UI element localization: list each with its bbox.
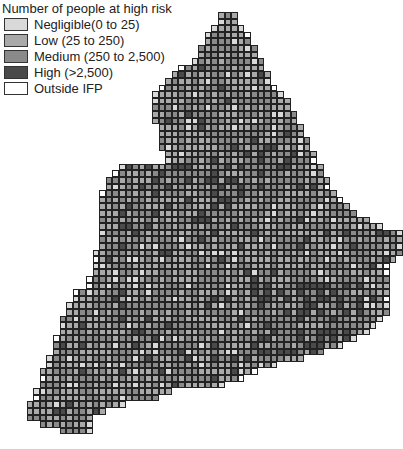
- grid-cell: [178, 78, 185, 85]
- grid-cell: [330, 263, 337, 270]
- grid-cell: [112, 289, 119, 296]
- grid-cell: [370, 230, 377, 237]
- grid-cell: [343, 283, 350, 290]
- grid-cell: [198, 250, 205, 257]
- grid-cell: [363, 256, 370, 263]
- grid-cell: [271, 197, 278, 204]
- grid-cell: [310, 190, 317, 197]
- grid-cell: [297, 256, 304, 263]
- grid-cell: [126, 316, 133, 323]
- grid-cell: [99, 250, 106, 257]
- grid-cell: [310, 223, 317, 230]
- grid-cell: [119, 269, 126, 276]
- grid-cell: [258, 316, 265, 323]
- grid-cell: [40, 415, 47, 422]
- grid-cell: [73, 329, 80, 336]
- grid-cell: [244, 217, 251, 224]
- grid-cell: [60, 395, 67, 402]
- grid-cell: [86, 283, 93, 290]
- grid-cell: [343, 302, 350, 309]
- grid-cell: [264, 230, 271, 237]
- grid-cell: [211, 296, 218, 303]
- grid-cell: [225, 12, 232, 19]
- grid-cell: [112, 322, 119, 329]
- grid-cell: [258, 78, 265, 85]
- grid-cell: [297, 250, 304, 257]
- grid-cell: [159, 349, 166, 356]
- grid-cell: [139, 170, 146, 177]
- grid-cell: [218, 355, 225, 362]
- grid-cell: [277, 131, 284, 138]
- grid-cell: [284, 197, 291, 204]
- grid-cell: [145, 190, 152, 197]
- grid-cell: [192, 164, 199, 171]
- grid-cell: [304, 269, 311, 276]
- grid-cell: [271, 243, 278, 250]
- grid-cell: [205, 263, 212, 270]
- grid-cell: [185, 151, 192, 158]
- grid-cell: [185, 217, 192, 224]
- grid-cell: [185, 197, 192, 204]
- grid-cell: [198, 197, 205, 204]
- grid-cell: [251, 236, 258, 243]
- grid-cell: [225, 309, 232, 316]
- grid-cell: [145, 368, 152, 375]
- grid-cell: [159, 276, 166, 283]
- grid-cell: [271, 184, 278, 191]
- grid-cell: [172, 349, 179, 356]
- grid-cell: [159, 210, 166, 217]
- grid-cell: [297, 316, 304, 323]
- legend-item-low: Low (25 to 250): [4, 32, 172, 48]
- grid-cell: [238, 223, 245, 230]
- grid-cell: [225, 276, 232, 283]
- grid-cell: [244, 256, 251, 263]
- grid-cell: [238, 217, 245, 224]
- grid-cell: [119, 236, 126, 243]
- grid-cell: [264, 329, 271, 336]
- grid-cell: [363, 250, 370, 257]
- grid-cell: [139, 263, 146, 270]
- grid-cell: [139, 355, 146, 362]
- grid-cell: [291, 269, 298, 276]
- grid-cell: [106, 322, 113, 329]
- grid-cell: [225, 71, 232, 78]
- grid-cell: [139, 190, 146, 197]
- grid-cell: [60, 316, 67, 323]
- grid-cell: [211, 32, 218, 39]
- grid-cell: [192, 375, 199, 382]
- grid-cell: [396, 230, 403, 237]
- grid-cell: [126, 177, 133, 184]
- grid-cell: [258, 269, 265, 276]
- grid-cell: [79, 368, 86, 375]
- grid-cell: [159, 124, 166, 131]
- grid-cell: [251, 322, 258, 329]
- grid-cell: [139, 184, 146, 191]
- grid-cell: [337, 296, 344, 303]
- grid-cell: [258, 151, 265, 158]
- grid-cell: [159, 362, 166, 369]
- grid-cell: [271, 85, 278, 92]
- grid-cell: [99, 375, 106, 382]
- grid-cell: [112, 243, 119, 250]
- grid-cell: [198, 144, 205, 151]
- grid-cell: [159, 170, 166, 177]
- grid-cell: [271, 349, 278, 356]
- grid-cell: [205, 78, 212, 85]
- grid-cell: [264, 177, 271, 184]
- grid-cell: [145, 170, 152, 177]
- grid-cell: [159, 256, 166, 263]
- grid-cell: [284, 335, 291, 342]
- grid-cell: [297, 210, 304, 217]
- grid-cell: [192, 368, 199, 375]
- grid-cell: [93, 388, 100, 395]
- grid-cell: [178, 276, 185, 283]
- grid-cell: [126, 388, 133, 395]
- grid-cell: [185, 190, 192, 197]
- grid-cell: [304, 349, 311, 356]
- grid-cell: [152, 283, 159, 290]
- grid-cell: [178, 243, 185, 250]
- grid-cell: [238, 256, 245, 263]
- grid-cell: [132, 203, 139, 210]
- grid-cell: [291, 329, 298, 336]
- grid-cell: [244, 329, 251, 336]
